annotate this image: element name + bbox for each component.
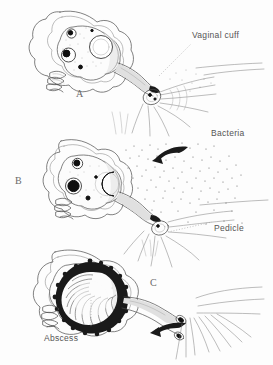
- label-bacteria: Bacteria: [211, 128, 245, 138]
- label-pedicle: Pedicle: [214, 223, 244, 233]
- bacteria-arrow: [152, 147, 188, 164]
- illustration-canvas: [0, 0, 273, 365]
- panel-letter-c: C: [150, 277, 157, 288]
- vaginal-cuff-leader: [159, 44, 191, 76]
- medical-illustration-figure: Vaginal cuff Bacteria Pedicle Abscess A …: [0, 0, 273, 365]
- panel-letter-b: B: [15, 175, 22, 186]
- label-abscess: Abscess: [44, 333, 78, 343]
- label-vaginal-cuff: Vaginal cuff: [192, 30, 239, 40]
- pedicle-leader: [168, 222, 212, 232]
- panel-letter-a: A: [76, 88, 83, 99]
